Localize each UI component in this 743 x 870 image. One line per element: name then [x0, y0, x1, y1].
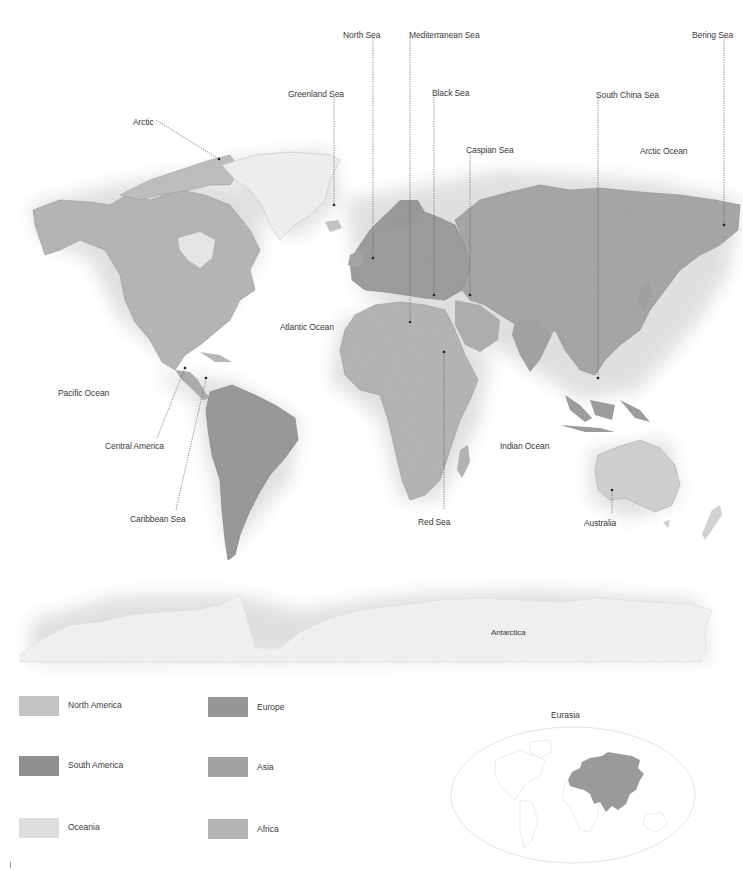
australia-label: Australia [584, 518, 616, 528]
legend-swatch-south-america [19, 756, 59, 776]
north-america-landmass [33, 190, 260, 370]
arctic-label: Arctic [133, 117, 154, 127]
caspian-sea-label: Caspian Sea [466, 145, 514, 155]
legend-label-europe: Europe [257, 702, 284, 712]
antarctica-label: Antarctica [491, 628, 526, 637]
atlantic-ocean-label: Atlantic Ocean [280, 322, 334, 332]
central-america-label: Central America [105, 441, 164, 451]
bering-sea-label: Bering Sea [692, 30, 733, 40]
greenland-sea-label: Greenland Sea [288, 89, 344, 99]
legend-label-south-america: South America [68, 760, 123, 770]
legend-label-asia: Asia [257, 762, 274, 772]
page-marker [10, 862, 11, 868]
caribbean-sea-label: Caribbean Sea [130, 514, 185, 524]
world-relief-map [0, 0, 743, 680]
indian-ocean-label: Indian Ocean [500, 441, 549, 451]
legend-label-africa: Africa [257, 824, 279, 834]
black-sea-label: Black Sea [432, 88, 469, 98]
legend-swatch-europe [208, 697, 248, 717]
pacific-ocean-label: Pacific Ocean [58, 388, 109, 398]
arctic-ocean-label: Arctic Ocean [640, 146, 687, 156]
north-sea-label: North Sea [343, 30, 380, 40]
legend-swatch-asia [208, 757, 248, 777]
legend-label-north-america: North America [68, 700, 122, 710]
eurasia-inset-map [440, 720, 710, 870]
south-china-sea-label: South China Sea [596, 90, 659, 100]
inset-title: Eurasia [551, 710, 580, 720]
mediterranean-sea-label: Mediterranean Sea [409, 30, 480, 40]
legend-label-oceania: Oceania [68, 822, 100, 832]
legend-swatch-oceania [19, 818, 59, 838]
legend-swatch-north-america [19, 696, 59, 716]
legend-swatch-africa [208, 819, 248, 839]
red-sea-label: Red Sea [418, 517, 450, 527]
